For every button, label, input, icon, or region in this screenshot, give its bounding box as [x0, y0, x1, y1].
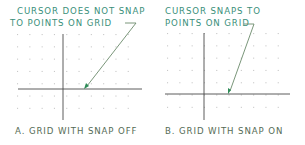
grid-dot	[229, 70, 230, 71]
grid-dot	[79, 34, 80, 35]
grid-dot	[91, 46, 92, 47]
grid-dot	[29, 71, 30, 72]
grid-dot	[91, 83, 92, 84]
grid-dot	[179, 33, 180, 34]
grid-dot	[179, 95, 180, 96]
grid-dot	[278, 33, 279, 34]
grid-dot	[91, 34, 92, 35]
grid-dot	[241, 107, 242, 108]
grid-dot	[229, 107, 230, 108]
grid-dot	[229, 45, 230, 46]
grid-dot	[192, 58, 193, 59]
grid-dot	[278, 95, 279, 96]
grid-dot	[115, 71, 116, 72]
grid-dot	[42, 71, 43, 72]
grid-dot	[42, 34, 43, 35]
grid-dot	[241, 70, 242, 71]
grid-dot	[103, 59, 104, 60]
grid-dot	[192, 33, 193, 34]
grid-dot	[179, 82, 180, 83]
grid-dot	[66, 108, 67, 109]
grid-dots-b	[167, 33, 279, 108]
caption-b: B. GRID WITH SNAP ON	[165, 126, 283, 136]
grid-dot	[167, 82, 168, 83]
grid-dot	[29, 59, 30, 60]
grid-dot	[17, 34, 18, 35]
caption-a: A. GRID WITH SNAP OFF	[15, 126, 137, 136]
grid-dot	[265, 82, 266, 83]
grid-dot	[216, 95, 217, 96]
grid-dot	[241, 45, 242, 46]
grid-dot	[265, 45, 266, 46]
grid-dot	[115, 108, 116, 109]
grid-dot	[103, 46, 104, 47]
grid-dot	[253, 82, 254, 83]
grid-dot	[79, 108, 80, 109]
grid-dot	[128, 46, 129, 47]
grid-dot	[128, 59, 129, 60]
grid-dot	[253, 70, 254, 71]
grid-dot	[66, 59, 67, 60]
grid-dot	[79, 59, 80, 60]
grid-dot	[103, 71, 104, 72]
grid-dot	[54, 34, 55, 35]
grid-dot	[103, 108, 104, 109]
grid-dot	[17, 46, 18, 47]
grid-dot	[103, 34, 104, 35]
leader-line-a	[87, 23, 136, 86]
grid-dot	[42, 96, 43, 97]
grid-dot	[115, 46, 116, 47]
grid-dot	[216, 33, 217, 34]
grid-dot	[253, 58, 254, 59]
grid-dot	[17, 96, 18, 97]
grid-dot	[192, 45, 193, 46]
grid-dot	[278, 82, 279, 83]
grid-dot	[241, 95, 242, 96]
grid-dot	[167, 95, 168, 96]
grid-dot	[128, 71, 129, 72]
grid-dot	[229, 82, 230, 83]
grid-dot	[91, 71, 92, 72]
grid-dot	[91, 108, 92, 109]
grid-dot	[115, 34, 116, 35]
grid-dot	[192, 82, 193, 83]
grid-dot	[128, 96, 129, 97]
callout-a-line-2: TO POINTS ON GRID	[9, 18, 112, 28]
grid-dot	[192, 70, 193, 71]
grid-dot	[54, 83, 55, 84]
grid-dot	[265, 95, 266, 96]
callout-b-line-1: CURSOR SNAPS TO	[165, 6, 261, 16]
grid-dot	[79, 46, 80, 47]
grid-dot	[216, 82, 217, 83]
grid-dot	[54, 71, 55, 72]
grid-dot	[179, 107, 180, 108]
grid-dot	[54, 108, 55, 109]
grid-dot	[66, 83, 67, 84]
grid-dot	[17, 83, 18, 84]
grid-dot	[167, 107, 168, 108]
callout-a-line-1: CURSOR DOES NOT SNAP	[17, 6, 145, 16]
grid-dot	[278, 107, 279, 108]
grid-dot	[29, 108, 30, 109]
grid-dot	[115, 59, 116, 60]
grid-dot	[265, 33, 266, 34]
grid-dot	[179, 70, 180, 71]
grid-dot	[42, 108, 43, 109]
grid-dot	[253, 107, 254, 108]
grid-dot	[253, 95, 254, 96]
panel-a: CURSOR DOES NOT SNAP TO POINTS ON GRID A…	[9, 6, 145, 136]
grid-dot	[17, 71, 18, 72]
grid-dot	[229, 33, 230, 34]
panel-b: CURSOR SNAPS TO POINTS ON GRID B. GRID W…	[165, 6, 290, 136]
grid-dot	[54, 96, 55, 97]
grid-dot	[103, 83, 104, 84]
grid-dot	[29, 46, 30, 47]
grid-dot	[42, 59, 43, 60]
grid-dot	[265, 107, 266, 108]
grid-dot	[128, 108, 129, 109]
grid-dot	[54, 59, 55, 60]
grid-dot	[216, 70, 217, 71]
grid-dot	[54, 46, 55, 47]
grid-dot	[79, 71, 80, 72]
grid-dot	[192, 107, 193, 108]
